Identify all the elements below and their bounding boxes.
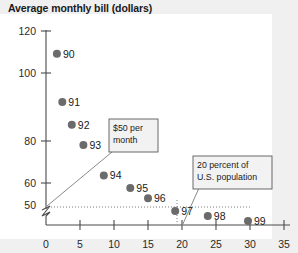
y-tick-label-50: 50 <box>24 199 36 211</box>
annotation-fifty-line2: month <box>113 135 138 145</box>
data-point-label-99: 99 <box>254 215 266 227</box>
annotation-twenty-percent-population: 20 percent of U.S. population <box>193 156 272 189</box>
data-point-label-92: 92 <box>78 119 90 131</box>
data-point-96 <box>144 194 152 202</box>
data-point-97 <box>171 207 179 215</box>
x-tick-label-35: 35 <box>278 238 290 250</box>
y-tick-label-80: 80 <box>24 135 36 147</box>
data-point-91 <box>58 98 66 106</box>
x-tick-label-10: 10 <box>108 238 120 250</box>
data-point-label-97: 97 <box>181 205 193 217</box>
chart-canvas: 120 100 80 60 50 0 5 10 15 20 25 30 35 <box>0 0 298 253</box>
data-point-90 <box>53 50 61 58</box>
data-point-99 <box>244 217 252 225</box>
chart-screenshot: Average monthly bill (dollars) 120 100 8… <box>0 0 298 253</box>
annotation-fifty-dollar-per-month: $50 per month <box>109 119 158 152</box>
data-point-label-90: 90 <box>63 48 75 60</box>
x-tick-label-15: 15 <box>142 238 154 250</box>
data-points-layer: 90919293949596979899 <box>53 48 266 227</box>
x-tick-label-25: 25 <box>210 238 222 250</box>
data-point-93 <box>79 141 87 149</box>
y-tick-label-60: 60 <box>24 177 36 189</box>
data-point-label-98: 98 <box>214 210 226 222</box>
data-point-98 <box>204 212 212 220</box>
data-point-label-93: 93 <box>89 139 101 151</box>
x-tick-label-5: 5 <box>77 238 83 250</box>
annotation-fifty-line1: $50 per <box>113 123 143 133</box>
data-point-label-95: 95 <box>136 182 148 194</box>
data-point-label-91: 91 <box>68 96 80 108</box>
annotation-twenty-line1: 20 percent of <box>197 160 249 170</box>
data-point-95 <box>126 184 134 192</box>
annotation-twenty-line2: U.S. population <box>197 172 257 182</box>
data-point-label-96: 96 <box>154 192 166 204</box>
data-point-94 <box>100 171 108 179</box>
data-point-92 <box>68 121 76 129</box>
y-tick-label-100: 100 <box>18 67 36 79</box>
x-tick-label-30: 30 <box>244 238 256 250</box>
y-tick-label-0: 0 <box>43 238 49 250</box>
x-tick-label-20: 20 <box>176 238 188 250</box>
y-tick-label-120: 120 <box>18 25 36 37</box>
data-point-label-94: 94 <box>110 169 122 181</box>
